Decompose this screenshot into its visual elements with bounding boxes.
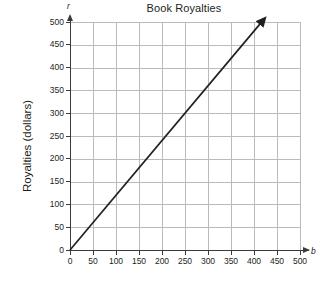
x-axis-tick [300,251,301,255]
y-axis-tick [66,227,70,228]
y-axis-tick [66,204,70,205]
x-axis-tick-label: 500 [285,256,315,266]
y-axis-tick-label: 0 [24,245,64,255]
chart-figure: Book Royalties Royalties (dollars) r b 0… [0,0,326,288]
gridline-horizontal [70,204,300,205]
y-axis-tick [66,136,70,137]
x-axis-tick [231,251,232,255]
y-axis-arrowhead [67,14,73,21]
gridline-horizontal [70,22,300,23]
x-axis-variable-label: b [311,246,316,256]
y-axis-tick-label: 300 [24,108,64,118]
gridline-horizontal [70,90,300,91]
x-axis-tick [162,251,163,255]
y-axis-tick [66,113,70,114]
y-axis-tick [66,22,70,23]
gridline-horizontal [70,68,300,69]
plot-area [70,22,300,250]
gridline-horizontal [70,136,300,137]
gridline-horizontal [70,159,300,160]
y-axis-tick-label: 450 [24,39,64,49]
y-axis-tick [66,158,70,159]
y-axis-tick [66,90,70,91]
y-axis-tick [66,181,70,182]
x-axis-tick [208,251,209,255]
y-axis-tick-label: 150 [24,176,64,186]
y-axis-tick-label: 400 [24,62,64,72]
x-axis-tick [139,251,140,255]
y-axis-tick-label: 500 [24,17,64,27]
x-axis-tick [93,251,94,255]
gridline-horizontal [70,227,300,228]
y-axis-tick-label: 250 [24,131,64,141]
x-axis-arrowhead [303,247,310,253]
y-axis-tick-label: 350 [24,85,64,95]
x-axis-tick [70,251,71,255]
gridline-horizontal [70,45,300,46]
y-axis-tick-label: 50 [24,222,64,232]
y-axis-variable-label: r [67,1,70,11]
x-axis-tick [185,251,186,255]
chart-title: Book Royalties [96,2,272,14]
x-axis-tick [277,251,278,255]
x-axis-tick [116,251,117,255]
y-axis-line [70,20,71,251]
y-axis-tick [66,67,70,68]
gridline-horizontal [70,113,300,114]
x-axis-line [69,250,309,251]
gridline-vertical [300,22,301,250]
gridline-horizontal [70,182,300,183]
y-axis-tick-label: 200 [24,153,64,163]
y-axis-tick [66,44,70,45]
y-axis-tick-label: 100 [24,199,64,209]
x-axis-tick [254,251,255,255]
